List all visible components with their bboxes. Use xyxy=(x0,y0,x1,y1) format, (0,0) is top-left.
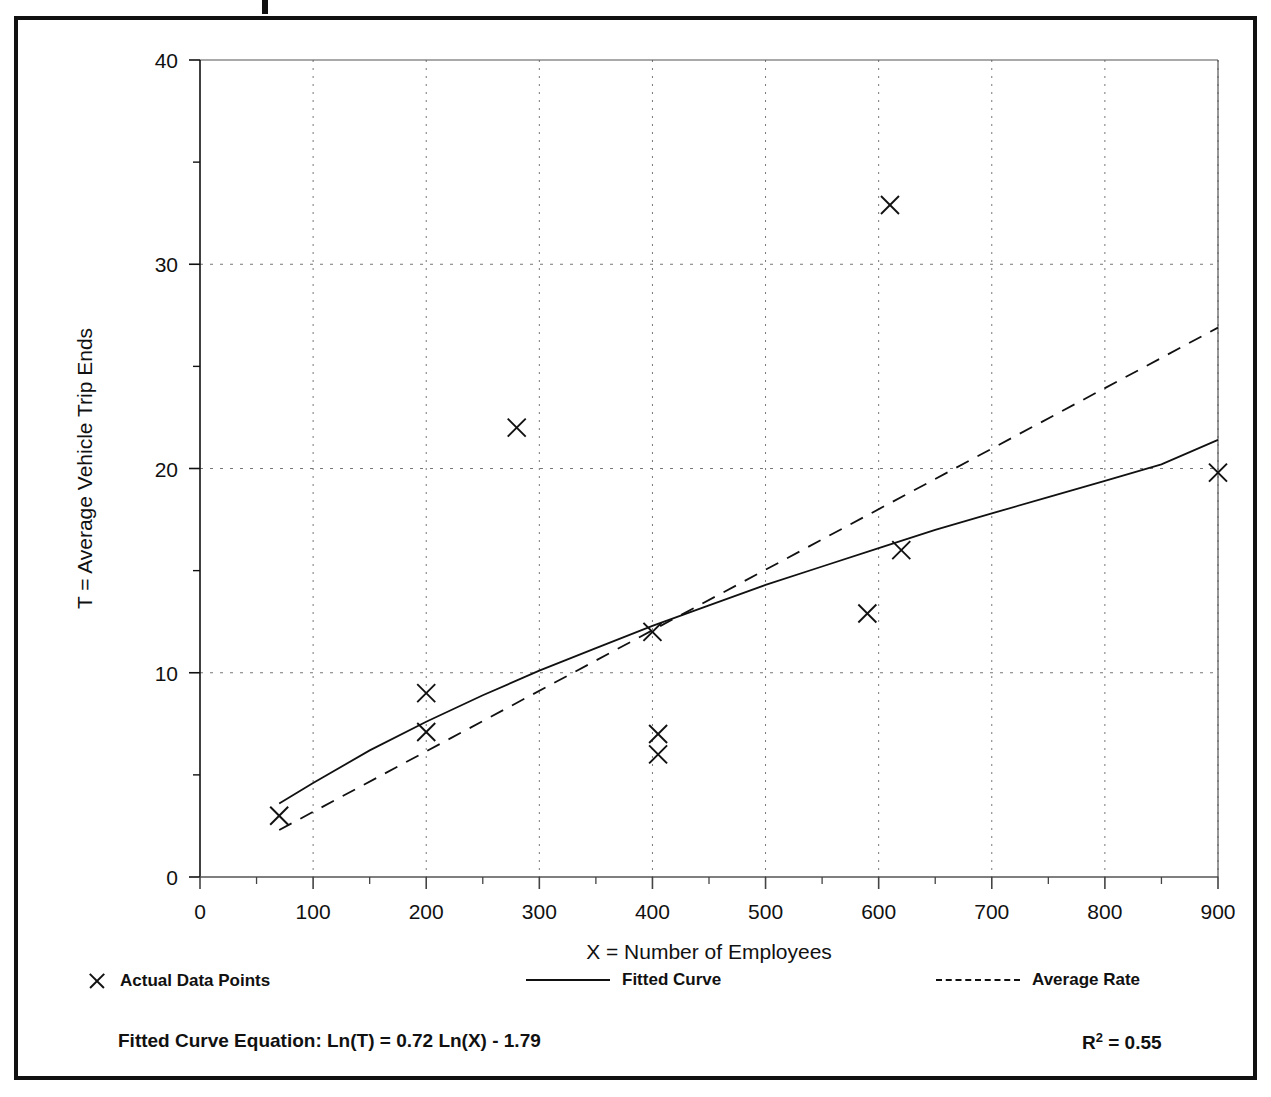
dashed-line-icon xyxy=(936,979,1020,981)
x-tick-label: 700 xyxy=(974,900,1009,923)
data-point-marker xyxy=(649,725,667,743)
r-squared-exponent: 2 xyxy=(1096,1030,1103,1045)
y-tick-label: 30 xyxy=(155,253,178,276)
y-tick-label: 40 xyxy=(155,49,178,72)
legend-label-actual-data-points: Actual Data Points xyxy=(120,971,270,991)
x-tick-label: 0 xyxy=(194,900,206,923)
r-squared-symbol: R xyxy=(1082,1032,1096,1053)
fitted-curve-line xyxy=(279,440,1218,804)
legend-label-fitted-curve: Fitted Curve xyxy=(622,970,721,990)
x-tick-label: 800 xyxy=(1087,900,1122,923)
plot-area: 0102030400100200300400500600700800900T =… xyxy=(0,0,1271,1097)
r-squared-number: = 0.55 xyxy=(1108,1032,1161,1053)
data-point-marker xyxy=(270,807,288,825)
x-marker-icon xyxy=(86,970,108,992)
data-point-marker xyxy=(881,196,899,214)
chart-legend: Actual Data Points Fitted Curve Average … xyxy=(60,966,1220,1006)
x-tick-label: 300 xyxy=(522,900,557,923)
data-point-marker xyxy=(508,419,526,437)
data-point-marker xyxy=(892,541,910,559)
average-rate-line xyxy=(279,328,1218,830)
legend-item-average-rate: Average Rate xyxy=(936,970,1140,990)
x-tick-label: 400 xyxy=(635,900,670,923)
chart-page: 0102030400100200300400500600700800900T =… xyxy=(0,0,1271,1097)
x-axis-title: X = Number of Employees xyxy=(586,940,832,963)
fitted-curve-equation: Fitted Curve Equation: Ln(T) = 0.72 Ln(X… xyxy=(118,1030,541,1052)
chart-footer: Fitted Curve Equation: Ln(T) = 0.72 Ln(X… xyxy=(60,1030,1220,1070)
x-tick-label: 600 xyxy=(861,900,896,923)
x-tick-label: 100 xyxy=(296,900,331,923)
y-tick-label: 0 xyxy=(166,866,178,889)
legend-label-average-rate: Average Rate xyxy=(1032,970,1140,990)
legend-item-fitted-curve: Fitted Curve xyxy=(526,970,721,990)
data-point-marker xyxy=(649,745,667,763)
legend-item-actual-data-points: Actual Data Points xyxy=(86,970,270,992)
y-axis-title: T = Average Vehicle Trip Ends xyxy=(73,328,96,609)
data-point-marker xyxy=(417,684,435,702)
chart-svg: 0102030400100200300400500600700800900T =… xyxy=(0,0,1271,1097)
data-point-marker xyxy=(858,605,876,623)
y-tick-label: 10 xyxy=(155,662,178,685)
x-tick-label: 900 xyxy=(1200,900,1235,923)
y-tick-label: 20 xyxy=(155,458,178,481)
x-tick-label: 200 xyxy=(409,900,444,923)
x-tick-label: 500 xyxy=(748,900,783,923)
solid-line-icon xyxy=(526,979,610,981)
r-squared-value: R2 = 0.55 xyxy=(1082,1030,1162,1054)
